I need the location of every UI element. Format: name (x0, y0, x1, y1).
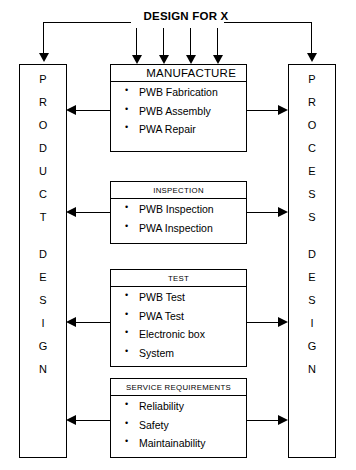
test-to-process-line (246, 322, 280, 323)
stage-box-inspection: INSPECTION PWB Inspection PWA Inspection (110, 181, 247, 244)
inspection-to-product-arrowhead-icon (66, 207, 76, 217)
pillar-letter: D (289, 249, 335, 260)
stage-header-service-requirements: SERVICE REQUIREMENTS (111, 379, 246, 396)
stage-item-list-test: PWB Test PWA Test Electronic box System (111, 287, 246, 358)
stage-header-label: MANUFACTURE (146, 67, 236, 79)
pillar-letter: N (20, 364, 66, 375)
manufacture-to-process-line (246, 110, 280, 111)
inspection-to-process-arrowhead-icon (278, 207, 288, 217)
pillar-letter: T (20, 212, 66, 223)
stage-item-list-inspection: PWB Inspection PWA Inspection (111, 199, 246, 233)
process-design-pillar: P R O C E S S D E S I G N (288, 64, 336, 458)
inspection-to-process-line (246, 212, 280, 213)
stage-box-test: TEST PWB Test PWA Test Electronic box Sy… (110, 269, 247, 367)
stage-header-manufacture: MANUFACTURE (111, 65, 246, 82)
pillar-letter: O (20, 120, 66, 131)
stage-box-manufacture: MANUFACTURE PWB Fabrication PWB Assembly… (110, 64, 247, 152)
pillar-letter: D (20, 143, 66, 154)
service-to-process-arrowhead-icon (278, 415, 288, 425)
service-to-product-arrowhead-icon (66, 415, 76, 425)
diagram-canvas: DESIGN FOR X P R O D U C T D E S I (0, 0, 356, 470)
stage-header-inspection: INSPECTION (111, 182, 246, 199)
dfx-arrow-4-head-icon (213, 55, 223, 64)
list-item: Maintainability (125, 438, 246, 449)
dfx-arrow-1-shaft (136, 28, 137, 56)
manufacture-to-product-line (76, 110, 112, 111)
dfx-arrow-3-shaft (190, 28, 191, 56)
list-item: PWB Inspection (125, 204, 246, 215)
list-item: Safety (125, 420, 246, 431)
test-to-process-arrowhead-icon (278, 317, 288, 327)
pillar-letter: C (289, 143, 335, 154)
dfx-arrow-4-shaft (217, 28, 218, 56)
service-to-product-line (76, 420, 112, 421)
list-item: PWA Test (125, 311, 246, 322)
left-bracket-horizontal (43, 22, 131, 23)
right-bracket-vertical (311, 22, 312, 54)
pillar-letter: S (289, 189, 335, 200)
pillar-letter: N (289, 364, 335, 375)
left-bracket-arrowhead-icon (39, 53, 49, 62)
dfx-arrow-1-head-icon (132, 55, 142, 64)
stage-box-service-requirements: SERVICE REQUIREMENTS Reliability Safety … (110, 378, 247, 458)
list-item: System (125, 348, 246, 359)
product-design-pillar: P R O D U C T D E S I G N (19, 64, 67, 458)
pillar-letter: S (289, 295, 335, 306)
pillar-letter: I (289, 318, 335, 329)
pillar-letter: S (20, 295, 66, 306)
test-to-product-line (76, 322, 112, 323)
stage-header-test: TEST (111, 270, 246, 287)
test-to-product-arrowhead-icon (66, 317, 76, 327)
pillar-letter: R (289, 97, 335, 108)
pillar-letter: C (20, 189, 66, 200)
diagram-title: DESIGN FOR X (131, 10, 241, 22)
pillar-letter: P (289, 74, 335, 85)
pillar-letter: R (20, 97, 66, 108)
pillar-letter: G (20, 341, 66, 352)
pillar-letter: O (289, 120, 335, 131)
manufacture-to-process-arrowhead-icon (278, 105, 288, 115)
list-item: PWA Repair (125, 124, 246, 135)
pillar-letter: E (289, 166, 335, 177)
pillar-letter: U (20, 166, 66, 177)
left-bracket-vertical (43, 22, 44, 54)
list-item: Reliability (125, 401, 246, 412)
inspection-to-product-line (76, 212, 112, 213)
manufacture-to-product-arrowhead-icon (66, 105, 76, 115)
pillar-letter: S (289, 212, 335, 223)
pillar-letter: E (20, 272, 66, 283)
dfx-arrow-3-head-icon (186, 55, 196, 64)
stage-header-label: TEST (168, 274, 189, 283)
service-to-process-line (246, 420, 280, 421)
stage-item-list-service-requirements: Reliability Safety Maintainability (111, 396, 246, 449)
dfx-arrow-2-shaft (163, 28, 164, 56)
pillar-letter: D (20, 249, 66, 260)
stage-header-label: INSPECTION (153, 186, 204, 195)
list-item: PWB Fabrication (125, 87, 246, 98)
dfx-arrow-2-head-icon (159, 55, 169, 64)
right-bracket-horizontal (224, 22, 312, 23)
list-item: PWA Inspection (125, 223, 246, 234)
list-item: PWB Test (125, 292, 246, 303)
pillar-letter: I (20, 318, 66, 329)
stage-item-list-manufacture: PWB Fabrication PWB Assembly PWA Repair (111, 82, 246, 135)
right-bracket-arrowhead-icon (307, 53, 317, 62)
pillar-letter: P (20, 74, 66, 85)
stage-header-label: SERVICE REQUIREMENTS (126, 383, 231, 392)
list-item: PWB Assembly (125, 106, 246, 117)
pillar-letter: E (289, 272, 335, 283)
list-item: Electronic box (125, 329, 246, 340)
pillar-letter: G (289, 341, 335, 352)
